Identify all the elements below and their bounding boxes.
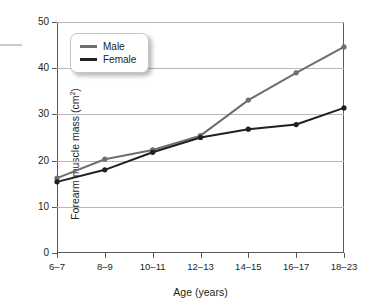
x-axis-tick	[201, 253, 202, 258]
data-point-female	[246, 127, 251, 132]
chart-figure: Forearm muscle mass (cm2) 01020304050 6–…	[0, 0, 371, 308]
x-axis-tick	[344, 253, 345, 258]
x-axis-title: Age (years)	[57, 286, 344, 298]
y-axis-tick-label: 10	[38, 202, 49, 212]
legend-swatch-male	[80, 45, 97, 48]
x-axis-tick-label: 16–17	[283, 262, 309, 272]
chart-legend: Male Female	[70, 33, 149, 73]
y-axis-tick-label: 30	[38, 109, 49, 119]
x-axis-tick	[57, 253, 58, 258]
data-point-female	[54, 179, 59, 184]
legend-label-female: Female	[103, 55, 136, 65]
x-axis-tick-label: 8–9	[97, 262, 113, 272]
series-line-female	[57, 108, 344, 182]
data-point-male	[102, 157, 107, 162]
y-axis-tick-label: 0	[43, 248, 49, 258]
x-axis-tick-label: 6–7	[49, 262, 65, 272]
x-axis-tick	[105, 253, 106, 258]
legend-item-female: Female	[80, 53, 136, 66]
data-point-female	[102, 167, 107, 172]
data-point-female	[150, 150, 155, 155]
x-axis-tick	[153, 253, 154, 258]
x-axis-tick	[248, 253, 249, 258]
x-axis-tick-label: 14–15	[235, 262, 261, 272]
scan-artifact	[0, 44, 22, 46]
y-axis-tick-label: 40	[38, 63, 49, 73]
data-point-female	[198, 135, 203, 140]
legend-swatch-female	[80, 58, 97, 61]
y-axis-tick-label: 50	[38, 17, 49, 27]
x-axis-tick-label: 12–13	[187, 262, 213, 272]
legend-item-male: Male	[80, 40, 136, 53]
y-axis-tick-label: 20	[38, 156, 49, 166]
data-point-male	[246, 97, 251, 102]
x-axis-tick-label: 10–11	[140, 262, 166, 272]
x-axis-tick	[296, 253, 297, 258]
data-point-female	[294, 122, 299, 127]
x-axis-tick-label: 18–23	[331, 262, 357, 272]
data-point-male	[294, 70, 299, 75]
legend-label-male: Male	[103, 42, 125, 52]
data-point-male	[341, 44, 346, 49]
data-point-female	[341, 105, 346, 110]
